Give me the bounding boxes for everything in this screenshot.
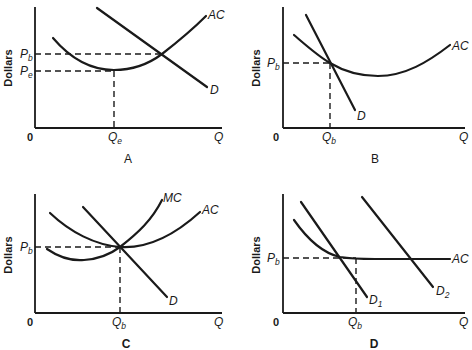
panel-d-ac-label: AC bbox=[451, 252, 469, 266]
panel-a-ac-curve bbox=[53, 16, 206, 70]
panel-c-d-label: D bbox=[169, 294, 178, 308]
panel-c-mc-label: MC bbox=[163, 191, 182, 205]
panel-c-letter: C bbox=[122, 337, 131, 350]
panel-b-pb-label: Pb bbox=[267, 56, 280, 72]
panel-c-pb-label: Pb bbox=[20, 240, 33, 256]
panel-c-qb-label: Qb bbox=[112, 315, 126, 331]
panel-c-origin-label: 0 bbox=[27, 316, 33, 328]
panel-c: Dollars MC AC D Pb 0 Qb Q C bbox=[2, 191, 223, 350]
panel-d-qb-label: Qb bbox=[348, 315, 362, 331]
panel-b: Dollars AC D Pb 0 Qb Q B bbox=[250, 7, 469, 166]
panel-c-demand-curve bbox=[83, 207, 167, 297]
panel-b-y-axis-label: Dollars bbox=[250, 49, 262, 86]
panel-d: Dollars AC D1 D2 Pb 0 Qb Q D bbox=[250, 194, 469, 350]
panel-a-letter: A bbox=[124, 152, 132, 166]
panel-a-ac-label: AC bbox=[207, 8, 225, 22]
panel-d-origin-label: 0 bbox=[273, 316, 279, 328]
panel-a-origin-label: 0 bbox=[27, 131, 33, 143]
panel-a-d-label: D bbox=[210, 83, 219, 97]
panel-b-d-label: D bbox=[357, 109, 366, 123]
panel-d-demand-1-curve bbox=[301, 202, 367, 297]
panel-d-letter: D bbox=[370, 337, 379, 350]
panel-b-origin-label: 0 bbox=[273, 131, 279, 143]
panel-a-qe-label: Qe bbox=[108, 130, 122, 146]
panel-d-d2-label: D2 bbox=[436, 284, 450, 300]
panel-d-d1-label: D1 bbox=[369, 293, 383, 309]
panel-c-q-label: Q bbox=[214, 315, 223, 329]
panel-d-y-axis-label: Dollars bbox=[250, 236, 262, 273]
panel-b-ac-label: AC bbox=[451, 39, 469, 53]
panel-a-pe-label: Pe bbox=[20, 64, 33, 80]
panel-a-pb-label: Pb bbox=[20, 47, 33, 63]
panel-a-q-label: Q bbox=[214, 130, 223, 144]
panel-b-letter: B bbox=[371, 152, 379, 166]
panel-b-qb-label: Qb bbox=[322, 130, 336, 146]
panel-c-y-axis-label: Dollars bbox=[2, 236, 14, 273]
panel-d-pb-label: Pb bbox=[267, 251, 280, 267]
panel-c-ac-label: AC bbox=[201, 203, 219, 217]
cost-curves-diagram: Dollars AC D Pb Pe 0 Qe Q A Dollars AC D… bbox=[0, 0, 472, 350]
panel-d-demand-2-curve bbox=[362, 197, 433, 287]
panel-b-q-label: Q bbox=[459, 130, 468, 144]
panel-b-ac-curve bbox=[294, 35, 450, 76]
panel-d-q-label: Q bbox=[459, 315, 468, 329]
panel-a-y-axis-label: Dollars bbox=[2, 49, 14, 86]
panel-a: Dollars AC D Pb Pe 0 Qe Q A bbox=[2, 7, 225, 166]
